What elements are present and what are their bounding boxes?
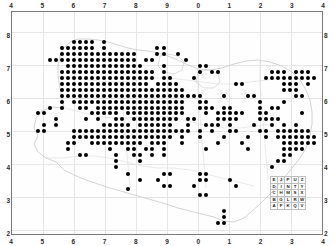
axis-tick-label: 8 <box>1 32 10 39</box>
record-dot <box>78 46 83 51</box>
record-dot <box>126 147 131 152</box>
record-dot <box>138 123 143 128</box>
record-dot <box>300 135 305 140</box>
record-dot <box>60 82 65 87</box>
record-dot <box>144 106 149 111</box>
record-dot <box>306 70 311 75</box>
record-dot <box>66 58 71 63</box>
record-dot <box>300 147 305 152</box>
record-dot <box>258 117 263 122</box>
record-dot <box>162 82 167 87</box>
record-dot <box>66 70 71 75</box>
record-dot <box>138 76 143 81</box>
record-dot <box>72 135 77 140</box>
record-dot <box>126 100 131 105</box>
record-dot <box>168 82 173 87</box>
record-dot <box>156 82 161 87</box>
record-dot <box>162 141 167 146</box>
grid-letter-legend: EJPUZDINTYCHMSXBGLRWAFKQV <box>270 176 306 210</box>
grid-letter-cell: X <box>299 190 306 197</box>
record-dot <box>114 159 119 164</box>
record-dot <box>120 135 125 140</box>
record-dot <box>276 129 281 134</box>
axis-tick-label: 4 <box>1 164 10 171</box>
record-dot <box>126 141 131 146</box>
record-dot <box>156 106 161 111</box>
record-dot <box>156 88 161 93</box>
record-dot <box>168 172 173 177</box>
record-dot <box>228 129 233 134</box>
record-dot <box>138 70 143 75</box>
record-dot <box>204 147 209 152</box>
record-dot <box>222 215 227 220</box>
record-dot <box>204 111 209 116</box>
grid-letter-cell: L <box>285 196 292 203</box>
record-dot <box>204 64 209 69</box>
record-dot <box>96 82 101 87</box>
record-dot <box>156 111 161 116</box>
axis-tick-label: 2 <box>256 2 266 9</box>
record-dot <box>114 94 119 99</box>
record-dot <box>108 123 113 128</box>
record-dot <box>114 111 119 116</box>
record-dot <box>234 129 239 134</box>
record-dot <box>180 106 185 111</box>
record-dot <box>36 111 41 116</box>
axis-tick-label: 7 <box>100 238 110 245</box>
record-dot <box>66 46 71 51</box>
record-dot <box>294 82 299 87</box>
record-dot <box>132 82 137 87</box>
record-dot <box>150 94 155 99</box>
record-dot <box>300 70 305 75</box>
record-dot <box>276 70 281 75</box>
record-dot <box>84 135 89 140</box>
record-dot <box>144 88 149 93</box>
record-dot <box>102 76 107 81</box>
record-dot <box>126 64 131 69</box>
record-dot <box>228 106 233 111</box>
record-dot <box>306 82 311 87</box>
record-dot <box>66 82 71 87</box>
record-dot <box>288 82 293 87</box>
record-dot <box>150 129 155 134</box>
record-dot <box>162 100 167 105</box>
record-dot <box>162 64 167 69</box>
record-dot <box>132 117 137 122</box>
record-dot <box>180 141 185 146</box>
record-dot <box>132 70 137 75</box>
record-dot <box>84 106 89 111</box>
record-dot <box>60 76 65 81</box>
record-dot <box>174 106 179 111</box>
record-dot <box>108 76 113 81</box>
record-dot <box>96 52 101 57</box>
record-dot <box>108 111 113 116</box>
record-dot <box>150 111 155 116</box>
record-dot <box>48 58 53 63</box>
record-dot <box>108 94 113 99</box>
record-dot <box>60 106 65 111</box>
record-dot <box>138 111 143 116</box>
record-dot <box>174 117 179 122</box>
axis-tick-label: 8 <box>324 32 333 39</box>
record-dot <box>204 178 209 183</box>
record-dot <box>138 129 143 134</box>
axis-tick-label: 7 <box>100 2 110 9</box>
record-dot <box>168 94 173 99</box>
record-dot <box>216 70 221 75</box>
grid-letter-cell: T <box>292 183 299 190</box>
record-dot <box>294 129 299 134</box>
record-dot <box>174 129 179 134</box>
record-dot <box>114 153 119 158</box>
record-dot <box>72 46 77 51</box>
record-dot <box>114 129 119 134</box>
record-dot <box>312 135 317 140</box>
record-dot <box>132 141 137 146</box>
record-dot <box>132 135 137 140</box>
axis-tick-label: 9 <box>162 2 172 9</box>
record-dot <box>126 88 131 93</box>
record-dot <box>72 88 77 93</box>
record-dot <box>96 111 101 116</box>
record-dot <box>186 129 191 134</box>
record-dot <box>72 94 77 99</box>
record-dot <box>168 106 173 111</box>
